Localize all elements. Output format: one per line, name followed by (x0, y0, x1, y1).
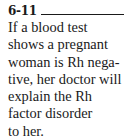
statement-line: to her. (8, 123, 129, 140)
statement-line: woman is Rh nega- (8, 54, 129, 71)
statement-line: explain the Rh (8, 88, 129, 105)
answer-blank-line (41, 14, 124, 15)
item-number: 6-11 (8, 4, 37, 18)
statement-line: tive, her doctor will (8, 71, 129, 88)
statement-line: If a blood test (8, 19, 129, 36)
statement-line: shows a pregnant (8, 36, 129, 53)
item-header: 6-11 (8, 3, 129, 18)
statement-text: If a blood test shows a pregnant woman i… (8, 19, 129, 140)
statement-line: factor disorder (8, 105, 129, 122)
statement-item: 6-11 If a blood test shows a pregnant wo… (8, 3, 129, 140)
